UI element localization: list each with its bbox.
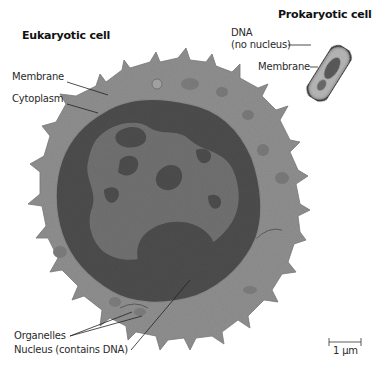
nucleus-label: Nucleus (contains DNA) [14,344,128,356]
cytoplasm-label: Cytoplasm [12,93,63,105]
dna-label-line1: DNA [231,27,252,39]
dna-label-line2: (no nucleus) [231,39,291,51]
eukaryote-membrane-label: Membrane [12,71,64,83]
nucleus [56,99,261,302]
micrograph-artwork [0,0,376,370]
prokaryote-membrane-label: Membrane [258,61,310,73]
prokaryotic-cell-title: Prokaryotic cell [278,8,372,21]
eukaryotic-cell-title: Eukaryotic cell [22,29,110,42]
organelles-label: Organelles [14,330,66,342]
prokaryotic-cell [303,42,355,106]
scale-bar-label: 1 µm [333,345,358,357]
